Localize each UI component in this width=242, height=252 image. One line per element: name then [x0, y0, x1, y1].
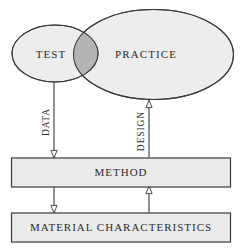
method-label: METHOD	[94, 166, 147, 178]
venn-flow-diagram: TEST PRACTICE DATA DESIGN METHOD MATERIA…	[0, 0, 242, 252]
diagram-canvas: TEST PRACTICE DATA DESIGN METHOD MATERIA…	[0, 0, 242, 252]
material-characteristics-label: MATERIAL CHARACTERISTICS	[30, 221, 212, 233]
edge-label-data: DATA	[41, 108, 51, 136]
edge-label-design: DESIGN	[136, 111, 146, 151]
test-label: TEST	[36, 48, 67, 60]
practice-label: PRACTICE	[115, 48, 177, 60]
